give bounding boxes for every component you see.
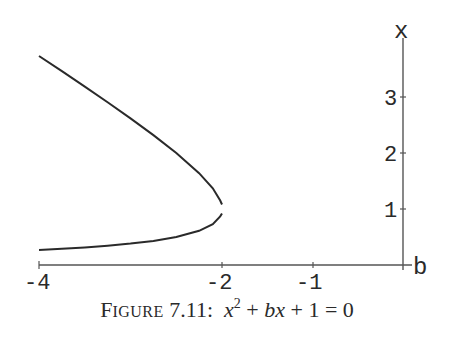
x-tick-label: -2 xyxy=(206,271,232,296)
upper-root-curve xyxy=(39,56,222,205)
y-tick-label: 1 xyxy=(384,199,397,224)
y-tick-label: 3 xyxy=(384,87,397,112)
y-axis-label: x xyxy=(394,18,408,45)
caption-number: 7.11: xyxy=(169,297,213,322)
lower-root-curve xyxy=(39,214,222,251)
bifurcation-chart: -4 -2 -1 1 2 3 x b xyxy=(0,0,454,300)
x-tick-label: -4 xyxy=(24,271,50,296)
x-tick-label: -1 xyxy=(296,271,322,296)
caption-var-x: x xyxy=(224,297,234,322)
caption-smallcaps: IGURE xyxy=(112,303,163,320)
caption-var-bx: bx xyxy=(264,297,285,322)
caption-exponent: 2 xyxy=(234,296,241,311)
caption-rest: + 1 = 0 xyxy=(285,297,354,322)
y-tick-label: 2 xyxy=(384,143,397,168)
caption-plus: + xyxy=(241,297,264,322)
caption-first-letter: F xyxy=(100,297,112,322)
figure-caption: FIGURE 7.11: x2 + bx + 1 = 0 xyxy=(0,296,454,323)
x-axis-label: b xyxy=(413,254,427,281)
